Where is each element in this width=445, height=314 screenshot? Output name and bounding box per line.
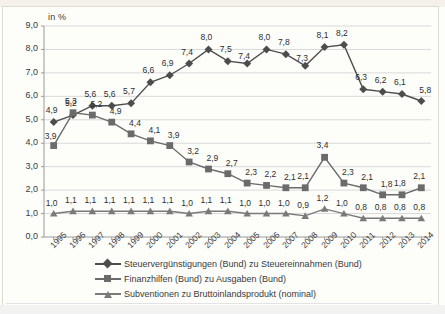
data-point-label: 5,3 (65, 96, 77, 106)
data-point-label: 1,2 (317, 193, 329, 203)
data-point-label: 8,0 (259, 32, 271, 42)
data-point-label: 5,8 (419, 85, 431, 95)
data-point-label: 1,8 (381, 179, 393, 189)
data-point-label: 2,7 (226, 158, 238, 168)
data-point-label: 3,9 (45, 131, 57, 141)
data-point-label: 0,9 (297, 200, 309, 210)
y-tick-label: 1,0 (16, 208, 38, 218)
legend-label: Finanzhilfen (Bund) zu Ausgaben (Bund) (124, 274, 286, 284)
data-point-label: 8,2 (336, 28, 348, 38)
data-point-label: 1,1 (65, 195, 77, 205)
data-point-label: 2,3 (245, 167, 257, 177)
data-point-label: 3,4 (317, 140, 329, 150)
legend-marker-square-icon (95, 273, 121, 284)
chart-page: in % 0,01,02,03,04,05,06,07,08,09,0 1995… (0, 0, 445, 314)
data-point-label: 1,0 (239, 198, 251, 208)
data-point-label: 4,9 (46, 105, 58, 115)
data-point-label: 8,1 (317, 30, 329, 40)
data-point-label: 5,2 (90, 99, 102, 109)
data-point-label: 1,0 (336, 198, 348, 208)
legend-item[interactable]: Subventionen zu Bruttoinlandsprodukt (no… (95, 286, 415, 301)
y-tick-label: 3,0 (16, 161, 38, 171)
bottom-divider (6, 303, 431, 304)
data-point-label: 7,8 (278, 37, 290, 47)
data-point-label: 6,9 (162, 58, 174, 68)
data-point-label: 1,1 (142, 195, 154, 205)
data-point-label: 2,3 (342, 167, 354, 177)
data-point-label: 2,2 (265, 169, 277, 179)
data-point-label: 2,1 (297, 171, 309, 181)
legend-item[interactable]: Finanzhilfen (Bund) zu Ausgaben (Bund) (95, 271, 415, 286)
data-point-label: 4,1 (148, 125, 160, 135)
data-point-label: 5,6 (104, 89, 116, 99)
data-point-label: 1,1 (220, 195, 232, 205)
data-point-label: 3,2 (187, 146, 199, 156)
data-point-label: 2,9 (206, 153, 218, 163)
data-point-label: 1,0 (181, 198, 193, 208)
y-tick-label: 7,0 (16, 67, 38, 77)
data-point-label: 0,8 (413, 202, 425, 212)
data-point-label: 7,4 (238, 51, 250, 61)
data-point-label: 6,6 (142, 65, 154, 75)
data-point-label: 0,8 (394, 202, 406, 212)
y-tick-label: 9,0 (16, 20, 38, 30)
y-tick-label: 2,0 (16, 184, 38, 194)
y-tick-label: 0,0 (16, 231, 38, 241)
data-point-label: 4,4 (129, 118, 141, 128)
data-point-label: 3,9 (168, 130, 180, 140)
bottom-band (0, 305, 445, 314)
data-point-label: 6,2 (375, 75, 387, 85)
data-point-label: 7,4 (181, 47, 193, 57)
data-point-label: 8,0 (200, 32, 212, 42)
data-point-label: 7,5 (220, 44, 232, 54)
data-point-label: 1,1 (84, 195, 96, 205)
data-point-label: 0,8 (355, 202, 367, 212)
y-tick-label: 8,0 (16, 43, 38, 53)
data-point-label: 2,1 (361, 172, 373, 182)
data-point-label: 2,1 (413, 171, 425, 181)
data-point-label: 2,1 (284, 172, 296, 182)
data-point-label: 6,3 (355, 72, 367, 82)
legend-label: Subventionen zu Bruttoinlandsprodukt (no… (124, 289, 316, 299)
data-point-label: 1,0 (278, 198, 290, 208)
data-point-label: 5,7 (123, 86, 135, 96)
chart-legend: Steuervergünstigungen (Bund) zu Steuerei… (95, 256, 415, 301)
y-tick-label: 6,0 (16, 90, 38, 100)
data-point-label: 6,1 (394, 77, 406, 87)
legend-label: Steuervergünstigungen (Bund) zu Steuerei… (124, 259, 362, 269)
data-point-label: 1,1 (123, 195, 135, 205)
y-tick-label: 5,0 (16, 114, 38, 124)
data-point-label: 1,1 (104, 195, 116, 205)
data-point-label: 1,8 (394, 178, 406, 188)
data-point-label: 1,1 (162, 195, 174, 205)
data-point-label: 4,9 (110, 106, 122, 116)
data-point-label: 5,6 (84, 89, 96, 99)
data-point-label: 1,1 (200, 195, 212, 205)
legend-item[interactable]: Steuervergünstigungen (Bund) zu Steuerei… (95, 256, 415, 271)
data-point-label: 7,3 (296, 53, 308, 63)
data-point-label: 1,0 (259, 198, 271, 208)
legend-marker-diamond-icon (95, 258, 121, 269)
legend-marker-triangle-icon (95, 288, 121, 299)
data-point-label: 0,8 (375, 202, 387, 212)
data-point-label: 1,0 (46, 198, 58, 208)
y-tick-label: 4,0 (16, 137, 38, 147)
